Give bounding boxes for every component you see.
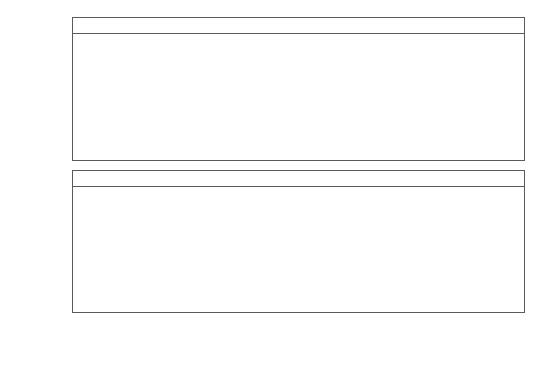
plot-area-class2 <box>72 186 525 313</box>
panel-strip-title-class2 <box>72 170 525 186</box>
panel-class2 <box>72 170 525 313</box>
panel-original <box>72 17 525 161</box>
bars-original <box>73 34 524 160</box>
panel-strip-title-original <box>72 17 525 33</box>
histogram-figure <box>0 0 549 366</box>
plot-area-original <box>72 33 525 161</box>
bars-class2 <box>73 187 524 312</box>
